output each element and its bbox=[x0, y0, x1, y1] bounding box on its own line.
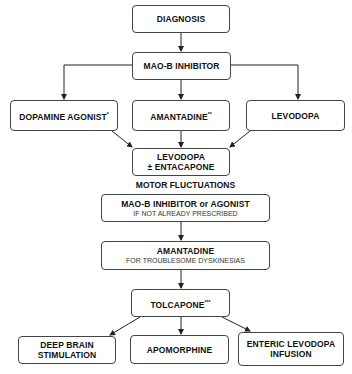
node-levodopa: LEVODOPA bbox=[246, 100, 345, 131]
node-maob-inhibitor: MAO-B INHIBITOR bbox=[132, 52, 231, 80]
node-amantadine-dyskinesias: AMANTADINE FOR TROUBLESOME DYSKINESIAS bbox=[101, 241, 270, 270]
node-label: AMANTADINE bbox=[157, 246, 215, 256]
node-label-line1: ENTERIC LEVODOPA bbox=[247, 339, 335, 349]
node-enteric-levodopa-infusion: ENTERIC LEVODOPA INFUSION bbox=[238, 332, 344, 366]
node-dopamine-agonist: DOPAMINE AGONIST* bbox=[10, 100, 118, 131]
node-label: LEVODOPA bbox=[272, 111, 320, 121]
node-label-line2: STIMULATION bbox=[38, 350, 97, 360]
section-label-motor-fluctuations: MOTOR FLUCTUATIONS bbox=[100, 180, 271, 190]
node-deep-brain-stimulation: DEEP BRAIN STIMULATION bbox=[18, 336, 116, 364]
node-diagnosis: DIAGNOSIS bbox=[132, 5, 230, 33]
node-maob-or-agonist: MAO-B INHIBITOR or AGONIST IF NOT ALREAD… bbox=[101, 194, 270, 222]
node-label: AMANTADINE** bbox=[150, 109, 212, 122]
node-label: APOMORPHINE bbox=[147, 345, 212, 355]
node-sublabel: IF NOT ALREADY PRESCRIBED bbox=[133, 209, 237, 218]
node-label-line2: INFUSION bbox=[270, 349, 311, 359]
node-label: DOPAMINE AGONIST* bbox=[19, 109, 109, 122]
node-tolcapone: TOLCAPONE*** bbox=[131, 289, 230, 317]
node-sublabel: FOR TROUBLESOME DYSKINESIAS bbox=[126, 256, 245, 265]
node-apomorphine: APOMORPHINE bbox=[130, 335, 229, 364]
node-label: MAO-B INHIBITOR bbox=[144, 61, 220, 71]
node-label: MAO-B INHIBITOR or AGONIST bbox=[121, 199, 250, 209]
node-label-line1: DEEP BRAIN bbox=[40, 340, 93, 350]
node-label-line1: LEVODOPA bbox=[157, 152, 205, 162]
node-label: TOLCAPONE*** bbox=[150, 297, 210, 310]
node-label-line2: ± ENTACAPONE bbox=[147, 162, 214, 172]
node-amantadine: AMANTADINE** bbox=[132, 100, 230, 131]
node-levodopa-entacapone: LEVODOPA ± ENTACAPONE bbox=[132, 148, 230, 176]
node-label: DIAGNOSIS bbox=[157, 14, 206, 24]
